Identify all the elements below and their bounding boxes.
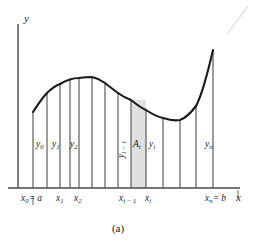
figure-caption: (a) [112, 222, 125, 235]
strip-label-y2: y2 [69, 139, 78, 150]
riemann-sum-figure: y x y0 y1 y2 yi − 1 Ai yi yn x0 = a x1 x… [0, 0, 255, 242]
x-tick-label-x0: x0 = a [20, 193, 42, 204]
x-tick-label-x2: x2 [73, 193, 82, 204]
x-tick-labels: x0 = a x1 x2 xi − 1 xi xn = b [20, 193, 226, 204]
figure-canvas: y x y0 y1 y2 yi − 1 Ai yi yn x0 = a x1 x… [0, 0, 255, 242]
y-axis-label: y [23, 12, 29, 24]
x-tick-label-x1: x1 [55, 193, 64, 204]
strip-height-labels: y0 y1 y2 yi − 1 Ai yi yn [35, 139, 213, 159]
x-tick-label-xi-minus-1: xi − 1 [118, 193, 137, 204]
print-artifact-mark [228, 6, 248, 33]
x-tick-label-xn: xn = b [204, 193, 226, 204]
strip-label-yi: yi [148, 139, 155, 150]
strip-label-yn: yn [204, 139, 213, 150]
x-tick-label-xi: xi [144, 193, 151, 204]
x-axis-label: x [235, 191, 241, 203]
strip-label-y1: y1 [51, 139, 60, 150]
partition-strip-lines [33, 50, 213, 188]
strip-label-y0: y0 [35, 139, 44, 150]
